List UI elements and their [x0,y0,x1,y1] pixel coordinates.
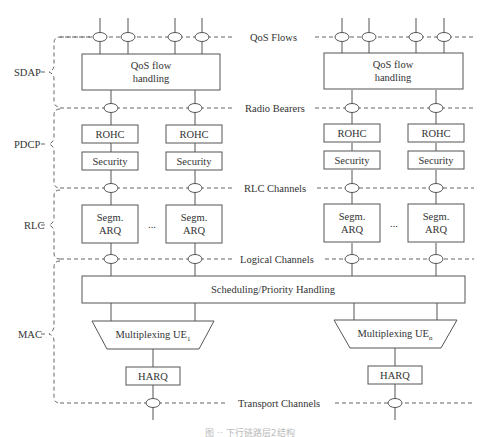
layer2-downlink-diagram: SDAP PDCP RLC MAC QoS Flows Radio Bearer… [0,0,494,437]
multiplexing-ue1-block: Multiplexing UE1 [92,321,214,349]
svg-text:QoS flow: QoS flow [131,60,172,71]
svg-text:HARQ: HARQ [138,371,168,382]
svg-text:ROHC: ROHC [95,129,124,140]
scheduling-priority-block: Scheduling/Priority Handling [82,276,465,303]
svg-text:handling: handling [375,72,412,83]
rohc-block: ROHC [82,125,138,143]
channel-label-transport-channels: Transport Channels [238,398,320,409]
svg-text:handling: handling [133,73,170,84]
layer-label-mac: MAC [18,329,42,340]
channel-label-qos-flows: QoS Flows [250,32,297,43]
qos-flow-handling-block-right: QoS flow handling [324,53,463,89]
multiplexing-uen-block: Multiplexing UEn [334,320,457,348]
svg-text:ARQ: ARQ [183,225,206,236]
segm-arq-block: Segm. ARQ [82,205,138,243]
svg-text:Segm.: Segm. [339,211,366,222]
svg-text:Security: Security [93,156,129,167]
security-block: Security [82,152,138,170]
security-block: Security [324,151,380,169]
svg-text:Security: Security [177,156,213,167]
rohc-block: ROHC [408,124,464,142]
svg-text:ROHC: ROHC [421,128,450,139]
figure-caption: 图 ·· 下行链路层2结构 [205,427,294,437]
layer-label-pdcp: PDCP [14,139,40,150]
harq-block-left: HARQ [126,367,180,385]
svg-text:Security: Security [419,155,455,166]
qos-flow-handling-block-left: QoS flow handling [82,54,220,90]
segm-arq-block: Segm. ARQ [408,204,464,242]
channel-label-logical-channels: Logical Channels [240,254,314,265]
svg-text:ARQ: ARQ [341,224,364,235]
rohc-block: ROHC [166,125,222,143]
channel-label-rlc-channels: RLC Channels [244,183,306,194]
svg-text:ARQ: ARQ [425,224,448,235]
harq-block-right: HARQ [368,366,422,384]
svg-text:ROHC: ROHC [179,129,208,140]
svg-text:Segm.: Segm. [181,212,208,223]
svg-text:QoS flow: QoS flow [373,59,414,70]
ellipsis-right: ... [390,218,398,229]
segm-arq-block: Segm. ARQ [324,204,380,242]
svg-text:Segm.: Segm. [97,212,124,223]
rohc-block: ROHC [324,124,380,142]
svg-text:Segm.: Segm. [423,211,450,222]
security-block: Security [166,152,222,170]
layer-label-sdap: SDAP [14,67,41,78]
svg-text:HARQ: HARQ [380,370,410,381]
svg-text:Security: Security [335,155,371,166]
svg-text:ROHC: ROHC [337,128,366,139]
channel-label-radio-bearers: Radio Bearers [245,103,305,114]
security-block: Security [408,151,464,169]
svg-text:ARQ: ARQ [99,225,122,236]
segm-arq-block: Segm. ARQ [166,205,222,243]
ellipsis-left: ... [148,219,156,230]
svg-text:Scheduling/Priority Handling: Scheduling/Priority Handling [211,284,336,295]
